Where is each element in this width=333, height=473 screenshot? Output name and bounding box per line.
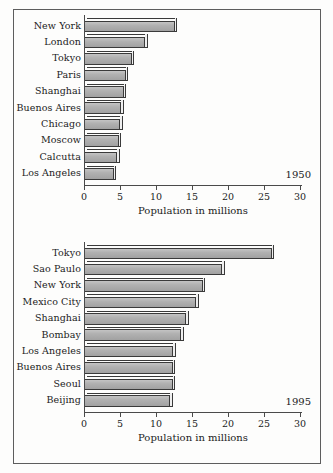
bar-side-face	[186, 311, 189, 325]
x-tick-label: 20	[222, 191, 234, 202]
category-label: Chicago	[13, 118, 81, 129]
bar-front-face	[84, 313, 186, 325]
bar-front-face	[84, 70, 126, 82]
bar-side-face	[173, 360, 176, 374]
year-annotation-1995: 1995	[286, 396, 311, 408]
bar-side-face	[170, 393, 173, 407]
x-axis-1995	[84, 412, 302, 413]
x-axis-title-1995: Population in millions	[84, 432, 302, 444]
x-tick	[228, 413, 229, 417]
bar-front-face	[84, 119, 120, 131]
bar-front-face	[84, 395, 170, 407]
bar-row: Moscow	[13, 132, 321, 148]
x-axis-1950	[84, 185, 302, 186]
x-tick-label: 10	[150, 418, 162, 429]
x-tick	[84, 413, 85, 417]
bar-front-face	[84, 329, 181, 341]
category-label: New York	[13, 279, 81, 290]
bar-los-angeles	[84, 166, 117, 180]
bar-row: Tokyo	[13, 50, 321, 66]
category-label: Paris	[13, 69, 81, 80]
category-label: New York	[13, 20, 81, 31]
plot-area-1950: New YorkLondonTokyoParisShanghaiBuenos A…	[13, 9, 321, 236]
bar-side-face	[222, 261, 225, 275]
bar-row: London	[13, 33, 321, 49]
x-tick	[228, 186, 229, 190]
bar-rows-1995: TokyoSao PauloNew YorkMexico CityShangha…	[13, 244, 321, 408]
x-tick	[156, 413, 157, 417]
bar-row: Shanghai	[13, 83, 321, 99]
bar-front-face	[84, 21, 175, 33]
bar-front-face	[84, 168, 114, 180]
x-tick	[156, 186, 157, 190]
category-label: Buenos Aires	[13, 361, 81, 372]
bar-side-face	[126, 67, 129, 81]
y-axis-1950	[84, 15, 85, 185]
x-tick-label: 5	[117, 418, 123, 429]
chart-panel-1995: TokyoSao PauloNew YorkMexico CityShangha…	[13, 236, 321, 464]
bar-front-face	[84, 280, 203, 292]
bar-row: Seoul	[13, 375, 321, 391]
bar-front-face	[84, 152, 117, 164]
bar-front-face	[84, 264, 222, 276]
chart-panel-1950: New YorkLondonTokyoParisShanghaiBuenos A…	[13, 9, 321, 236]
bar-sao-paulo	[84, 261, 225, 275]
bar-row: Buenos Aires	[13, 359, 321, 375]
bar-paris	[84, 67, 129, 81]
x-tick-label: 15	[186, 418, 198, 429]
bar-side-face	[121, 100, 124, 114]
x-tick-label: 25	[258, 418, 270, 429]
year-annotation-1950: 1950	[286, 169, 311, 181]
category-label: Beijing	[13, 394, 81, 405]
bar-front-face	[84, 346, 173, 358]
bar-side-face	[117, 149, 120, 163]
x-tick-label: 25	[258, 191, 270, 202]
bar-front-face	[84, 135, 119, 147]
category-label: Seoul	[13, 378, 81, 389]
bar-row: Chicago	[13, 115, 321, 131]
x-tick-label: 0	[81, 191, 87, 202]
x-tick	[264, 186, 265, 190]
bar-front-face	[84, 362, 173, 374]
bar-side-face	[120, 116, 123, 130]
bar-row: Beijing	[13, 392, 321, 408]
bar-row: New York	[13, 277, 321, 293]
bar-front-face	[84, 53, 132, 65]
category-label: Tokyo	[13, 52, 81, 63]
bar-row: Shanghai	[13, 310, 321, 326]
bar-calcutta	[84, 149, 120, 163]
category-label: Mexico City	[13, 296, 81, 307]
bar-front-face	[84, 248, 272, 260]
category-label: Los Angeles	[13, 345, 81, 356]
bar-row: Paris	[13, 66, 321, 82]
bar-los-angeles	[84, 343, 176, 357]
bar-shanghai	[84, 311, 189, 325]
bar-side-face	[114, 166, 117, 180]
bar-beijing	[84, 393, 173, 407]
bar-london	[84, 34, 148, 48]
x-tick	[300, 186, 301, 190]
category-label: Tokyo	[13, 247, 81, 258]
x-tick-label: 0	[81, 418, 87, 429]
x-tick-label: 15	[186, 191, 198, 202]
x-tick-label: 5	[117, 191, 123, 202]
population-bar-charts-figure: New YorkLondonTokyoParisShanghaiBuenos A…	[0, 0, 333, 473]
bar-row: Los Angeles	[13, 165, 321, 181]
bar-row: New York	[13, 17, 321, 33]
bar-front-face	[84, 379, 173, 391]
x-tick-label: 20	[222, 418, 234, 429]
category-label: London	[13, 36, 81, 47]
bar-mexico-city	[84, 294, 199, 308]
bar-row: Sao Paulo	[13, 260, 321, 276]
category-label: Moscow	[13, 134, 81, 145]
category-label: Calcutta	[13, 151, 81, 162]
category-label: Buenos Aires	[13, 102, 81, 113]
x-tick	[84, 186, 85, 190]
x-tick-label: 10	[150, 191, 162, 202]
x-tick	[264, 413, 265, 417]
bar-buenos-aires	[84, 360, 176, 374]
bar-side-face	[119, 133, 122, 147]
bar-row: Buenos Aires	[13, 99, 321, 115]
x-tick	[192, 413, 193, 417]
bar-row: Tokyo	[13, 244, 321, 260]
